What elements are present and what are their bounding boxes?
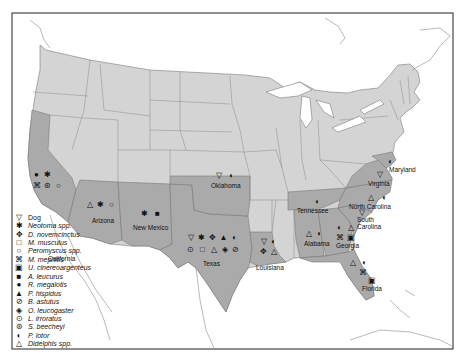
legend-label: Neotoma spp. (28, 222, 72, 229)
symbol-dog-icon: ▽ (214, 172, 223, 180)
symbol-neotoma-icon: ✱ (43, 171, 52, 179)
legend-label: Peromyscus spp. (28, 247, 82, 254)
symbol-dog-icon: ▽ (259, 238, 268, 246)
legend-label: O. leucogaster (28, 307, 74, 314)
symbol-neotoma-icon: ✱ (140, 210, 149, 218)
state-label-virginia: Virginia (368, 180, 390, 187)
map-legend: ▽Dog ✱Neotoma spp. ✥D. novemcinctus □M. … (14, 213, 114, 348)
legend-item-neotoma: ✱Neotoma spp. (14, 221, 114, 229)
state-label-georgia: Georgia (336, 242, 359, 249)
symbol-l-irroratus-icon: ⊙ (186, 246, 195, 254)
legend-label: R. megalotis (28, 281, 67, 288)
legend-label: P. hispidus (28, 290, 61, 297)
legend-item-u-cinereoargenteus: ▣U. cinereoargenteus (14, 264, 114, 272)
symbol-p-lotor-icon: ◐ (315, 230, 324, 238)
state-label-north-carolina: North Carolina (349, 203, 391, 210)
state-label-tennessee: Tennessee (297, 207, 328, 214)
symbol-d-novemcinctus-icon: ✥ (259, 248, 268, 256)
symbol-p-lotor-icon: ◐ (335, 224, 344, 232)
state-label-maryland: Maryland (389, 166, 416, 173)
symbol-dog-icon: ▽ (186, 234, 195, 242)
legend-label: B. astutus (28, 298, 59, 305)
symbol-p-lotor-icon: ◐ (380, 194, 389, 202)
symbol-p-lotor-icon: ◐ (230, 234, 239, 242)
symbol-p-lotor-icon: ◐ (360, 259, 369, 267)
legend-item-s-beecheyi: ⊛S. beecheyi (14, 323, 114, 331)
symbol-didelphis-icon: △ (85, 201, 94, 209)
symbol-d-novemcinctus-icon: ✥ (208, 234, 217, 242)
symbol-didelphis-icon: △ (346, 224, 355, 232)
symbol-peromyscus-icon: ○ (54, 182, 63, 190)
didelphis-icon: △ (14, 339, 24, 348)
legend-item-peromyscus: ○Peromyscus spp. (14, 247, 114, 255)
legend-item-dog: ▽Dog (14, 213, 114, 221)
state-label-oklahoma: Oklahoma (211, 182, 241, 189)
symbol-neotoma-icon: ✱ (96, 201, 105, 209)
legend-item-l-irroratus: ⊙L. irroratus (14, 314, 114, 322)
legend-label: M. mephitis (28, 256, 64, 263)
symbol-p-hispidus-icon: ▲ (219, 234, 228, 242)
symbol-neotoma-icon: ✱ (197, 234, 206, 242)
symbol-p-lotor-icon: ◐ (227, 172, 236, 180)
legend-label: Dog (28, 214, 41, 221)
legend-item-p-lotor: ◐P. lotor (14, 331, 114, 339)
symbol-m-mephitis-icon: ⌘ (335, 234, 344, 242)
legend-label: P. lotor (28, 332, 49, 339)
state-label-texas: Texas (203, 260, 220, 267)
symbol-peromyscus-icon: ○ (107, 201, 116, 209)
symbol-didelphis-icon: △ (209, 246, 218, 254)
legend-label: S. beecheyi (28, 323, 65, 330)
symbol-b-astutus-icon: ⊘ (231, 246, 240, 254)
symbol-p-lotor-icon: ◐ (386, 158, 395, 166)
symbol-m-musculus-icon: □ (198, 246, 207, 254)
state-label-alabama: Alabama (304, 240, 330, 247)
legend-item-m-musculus: □M. musculus (14, 238, 114, 246)
legend-item-p-hispidus: ▲P. hispidus (14, 289, 114, 297)
legend-item-didelphis: △Didelphis spp. (14, 340, 114, 348)
state-label-louisiana: Louisiana (256, 264, 284, 271)
legend-label: A. leucurus (28, 273, 63, 280)
state-label-new-mexico: New Mexico (133, 224, 168, 231)
symbol-didelphis-icon: △ (269, 248, 278, 256)
legend-label: L. irroratus (28, 315, 61, 322)
legend-item-d-novemcinctus: ✥D. novemcinctus (14, 230, 114, 238)
legend-item-b-astutus: ⊘B. astutus (14, 297, 114, 305)
symbol-didelphis-icon: △ (304, 230, 313, 238)
symbol-a-leucurus-icon: ■ (153, 210, 162, 218)
symbol-u-cinereoargenteus-icon: ▣ (346, 234, 355, 242)
legend-item-o-leucogaster: ◈O. leucogaster (14, 306, 114, 314)
legend-label: Didelphis spp. (28, 340, 72, 347)
symbol-dog-icon: ▽ (357, 209, 366, 217)
legend-label: D. novemcinctus (28, 231, 80, 238)
legend-label: M. musculus (28, 239, 67, 246)
symbol-s-beecheyi-icon: ⊛ (43, 182, 52, 190)
symbol-o-leucogaster-icon: ◈ (220, 246, 229, 254)
symbol-p-lotor-icon: ◐ (313, 198, 322, 206)
legend-item-r-megalotis: ●R. megalotis (14, 281, 114, 289)
state-label-south-carolina-line2: Carolina (357, 223, 381, 230)
symbol-didelphis-icon: △ (348, 259, 357, 267)
state-label-florida: Florida (362, 285, 382, 292)
symbol-didelphis-icon: △ (366, 194, 375, 202)
state-label-south-carolina-line1: South (357, 216, 374, 223)
symbol-m-mephitis-icon: ⌘ (32, 182, 41, 190)
symbol-u-cinereoargenteus-icon: ▣ (367, 277, 376, 285)
legend-label: U. cinereoargenteus (28, 264, 91, 271)
legend-item-a-leucurus: ■A. leucurus (14, 272, 114, 280)
symbol-p-lotor-icon: ◐ (269, 238, 278, 246)
legend-item-m-mephitis: ⌘M. mephitis (14, 255, 114, 263)
symbol-m-mephitis-icon: ⌘ (358, 269, 367, 277)
symbol-r-megalotis-icon: ● (32, 171, 41, 179)
symbol-dog-icon: ▽ (375, 171, 384, 179)
